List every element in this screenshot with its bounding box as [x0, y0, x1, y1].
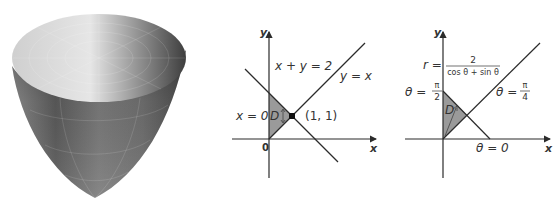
r-equation-prefix: r =: [423, 58, 442, 72]
origin-label: 0: [262, 142, 269, 153]
line-y-equals-x-label: y = x: [339, 69, 373, 83]
boundary-x-equals-0-label: x = 0: [235, 109, 269, 123]
y-axis-label: y: [434, 26, 442, 39]
cartesian-diagram: y x 0 x + y = 2 y = x x = 0 D (1, 1): [232, 26, 378, 178]
point-1-1: [289, 113, 295, 119]
theta-zero-label: θ = 0: [476, 141, 509, 155]
x-axis-label: x: [544, 142, 553, 155]
paraboloid-surface: [12, 14, 186, 198]
line-y-equals-x: [269, 43, 365, 139]
theta-pi-over-2-prefix: θ =: [405, 85, 426, 99]
x-axis-label: x: [369, 142, 378, 155]
region-d-label: D: [270, 109, 279, 123]
line-x-plus-y-label: x + y = 2: [274, 59, 332, 73]
theta-pi-over-4-prefix: θ =: [496, 85, 517, 99]
point-label: (1, 1): [305, 109, 337, 123]
figure-canvas: y x 0 x + y = 2 y = x x = 0 D (1, 1) y x…: [0, 0, 558, 200]
r-equation-numerator: 2: [470, 55, 476, 65]
region-d-label: D: [445, 103, 454, 117]
r-equation-denominator: cos θ + sin θ: [447, 68, 499, 77]
polar-diagram: y x r = 2 cos θ + sin θ θ = π 2 θ = π 4 …: [405, 26, 553, 178]
y-axis-label: y: [260, 26, 268, 39]
theta-pi-over-2-den: 2: [434, 92, 440, 102]
theta-pi-over-4-num: π: [523, 81, 528, 90]
theta-pi-over-2-num: π: [435, 81, 440, 90]
theta-pi-over-4-den: 4: [522, 92, 528, 102]
